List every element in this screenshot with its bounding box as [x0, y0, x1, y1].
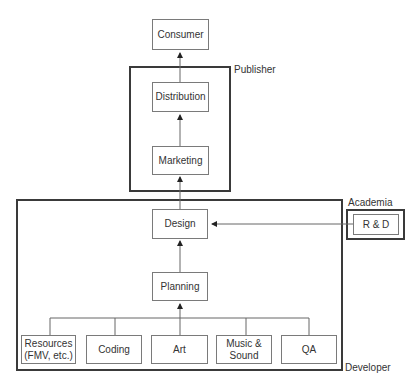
node-distribution: Distribution	[152, 82, 209, 112]
node-design-label: Design	[164, 218, 195, 230]
node-consumer: Consumer	[152, 19, 209, 50]
node-consumer-label: Consumer	[157, 29, 203, 41]
node-qa-label: QA	[302, 344, 316, 356]
node-rnd-label: R & D	[363, 219, 390, 231]
node-planning-label: Planning	[161, 281, 200, 293]
node-music-sound-label: Music & Sound	[226, 338, 262, 362]
node-coding-label: Coding	[98, 344, 130, 356]
node-music-sound: Music & Sound	[216, 335, 272, 364]
academia-label: Academia	[348, 197, 392, 209]
node-rnd: R & D	[353, 214, 399, 235]
node-distribution-label: Distribution	[155, 91, 205, 103]
node-marketing-label: Marketing	[159, 155, 203, 167]
diagram-canvas: Consumer Distribution Marketing Design R…	[0, 0, 416, 387]
node-coding: Coding	[86, 335, 142, 364]
node-design: Design	[152, 209, 208, 239]
node-art: Art	[151, 335, 208, 364]
node-marketing: Marketing	[152, 146, 209, 175]
node-art-label: Art	[173, 344, 186, 356]
publisher-label: Publisher	[234, 64, 276, 76]
node-qa: QA	[281, 335, 337, 364]
developer-label: Developer	[345, 362, 391, 374]
node-planning: Planning	[152, 272, 208, 301]
node-resources: Resources (FMV, etc.)	[21, 335, 76, 364]
node-resources-label: Resources (FMV, etc.)	[24, 338, 73, 362]
connectors	[0, 0, 416, 387]
